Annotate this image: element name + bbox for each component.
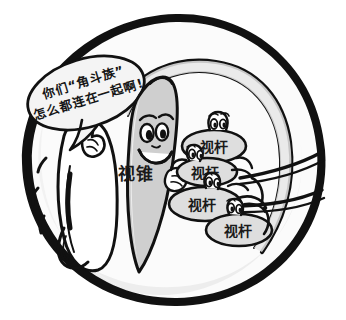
illustration-canvas: 你们“角斗族” 怎么都连在一起啊! (0, 0, 346, 320)
rod-cell-3-label: 视杆 (188, 197, 216, 213)
cone-cell-label: 视锥 (118, 164, 153, 184)
rod-cell-1-label: 视杆 (200, 139, 228, 155)
rod-cell-4-label: 视杆 (224, 223, 252, 239)
cartoon-illustration: 你们“角斗族” 怎么都连在一起啊! (0, 0, 346, 320)
